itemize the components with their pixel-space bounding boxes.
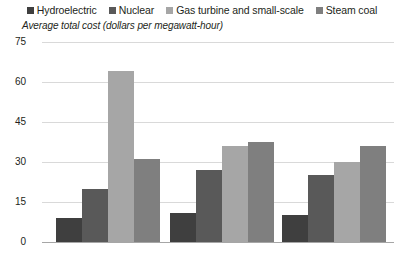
bar[interactable] xyxy=(82,189,108,242)
y-axis-tick-label: 45 xyxy=(0,117,26,127)
legend-item[interactable]: Nuclear xyxy=(109,5,154,16)
bar[interactable] xyxy=(248,142,274,242)
bar[interactable] xyxy=(334,162,360,242)
bar-chart: HydroelectricNuclearGas turbine and smal… xyxy=(0,0,404,269)
legend-swatch-icon xyxy=(316,7,323,14)
legend-item[interactable]: Steam coal xyxy=(316,5,378,16)
bar[interactable] xyxy=(134,159,160,242)
y-axis-tick-label: 30 xyxy=(0,157,26,167)
legend-item-label: Gas turbine and small-scale xyxy=(176,5,303,16)
x-axis-line xyxy=(42,242,394,243)
bar-group xyxy=(170,42,274,242)
legend-item-label: Steam coal xyxy=(326,5,378,16)
bar[interactable] xyxy=(222,146,248,242)
legend-swatch-icon xyxy=(27,7,34,14)
legend-swatch-icon xyxy=(109,7,116,14)
bar-groups: 200720122017 xyxy=(42,42,394,242)
bar[interactable] xyxy=(282,215,308,242)
bar[interactable] xyxy=(196,170,222,242)
bar[interactable] xyxy=(360,146,386,242)
legend-item-label: Nuclear xyxy=(119,5,154,16)
bar[interactable] xyxy=(170,213,196,242)
y-axis-tick-label: 0 xyxy=(0,237,26,247)
legend-item[interactable]: Hydroelectric xyxy=(27,5,97,16)
legend-item[interactable]: Gas turbine and small-scale xyxy=(166,5,303,16)
legend-swatch-icon xyxy=(166,7,173,14)
y-axis-tick-label: 15 xyxy=(0,197,26,207)
bar[interactable] xyxy=(308,175,334,242)
bar[interactable] xyxy=(108,71,134,242)
bar-group xyxy=(282,42,386,242)
y-axis-tick-label: 60 xyxy=(0,77,26,87)
bar[interactable] xyxy=(56,218,82,242)
chart-legend: HydroelectricNuclearGas turbine and smal… xyxy=(0,2,404,19)
legend-item-label: Hydroelectric xyxy=(37,5,97,16)
bar-group xyxy=(56,42,160,242)
y-axis-title: Average total cost (dollars per megawatt… xyxy=(22,20,223,32)
y-axis-tick-label: 75 xyxy=(0,37,26,47)
